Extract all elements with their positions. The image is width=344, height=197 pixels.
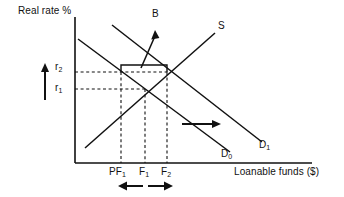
crowding-out-arrow-right-head bbox=[164, 182, 173, 191]
bracket-label: B bbox=[152, 8, 159, 19]
x-tick-label-pf1: PF1 bbox=[109, 166, 126, 178]
demand-curve-initial bbox=[78, 39, 230, 152]
y-tick-r2-sub: 2 bbox=[58, 66, 62, 73]
borrowing-bracket bbox=[121, 65, 167, 72]
x-tick-label-f1: F1 bbox=[139, 166, 149, 178]
supply-curve-label: S bbox=[218, 20, 225, 31]
x-tick-f1-sub: 1 bbox=[145, 171, 149, 178]
demand-initial-sub: 0 bbox=[228, 153, 232, 160]
x-tick-pf1-base: PF bbox=[109, 166, 122, 177]
crowding-out-arrow-left-head bbox=[118, 182, 127, 191]
economics-diagram: Real rate % Loanable funds ($) r2 r1 PF1… bbox=[0, 0, 344, 197]
y-axis-label: Real rate % bbox=[18, 5, 71, 16]
rate-increase-arrow-head bbox=[41, 63, 49, 72]
demand-new-label: D1 bbox=[259, 139, 270, 151]
bracket-arrow-head bbox=[151, 30, 159, 39]
x-tick-label-f2: F2 bbox=[161, 166, 171, 178]
y-tick-label-r2: r2 bbox=[55, 61, 62, 73]
x-axis-label: Loanable funds ($) bbox=[234, 166, 319, 177]
demand-initial-label: D0 bbox=[221, 148, 232, 160]
bracket-arrow-line bbox=[141, 36, 155, 68]
demand-new-sub: 1 bbox=[266, 144, 270, 151]
x-tick-pf1-sub: 1 bbox=[122, 171, 126, 178]
y-tick-r1-sub: 1 bbox=[58, 87, 62, 94]
y-tick-label-r1: r1 bbox=[55, 82, 62, 94]
demand-shift-arrow-head bbox=[212, 120, 221, 128]
x-tick-f2-sub: 2 bbox=[167, 171, 171, 178]
